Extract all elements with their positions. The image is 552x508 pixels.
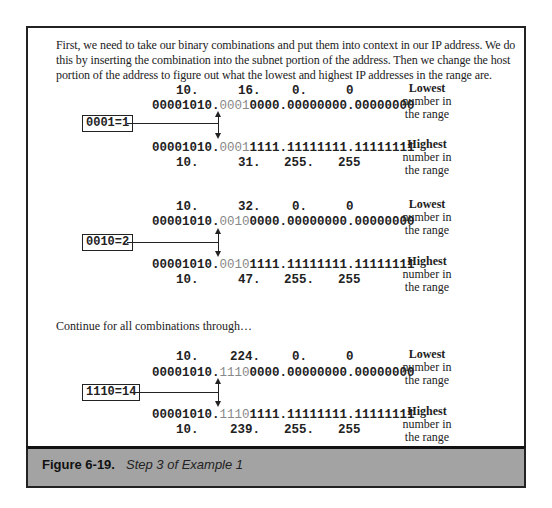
connector-vline — [218, 231, 219, 252]
low-octet-3: 0. — [292, 200, 307, 214]
arrow-up-icon — [215, 378, 221, 384]
high-octet-1: 10. — [176, 273, 199, 287]
low-octet-3: 0. — [292, 84, 307, 98]
high-octet-3: 255. — [284, 273, 314, 287]
low-binary: 00001010.00100000.00000000.00000000 — [152, 215, 415, 229]
low-octet-4: 0 — [346, 350, 354, 364]
low-octet-1: 10. — [176, 84, 199, 98]
high-octet-2: 239. — [230, 423, 260, 437]
low-binary: 00001010.11100000.00000000.00000000 — [152, 366, 415, 380]
lowest-label: Lowestnumber in the range — [394, 198, 460, 237]
lowest-label: Lowestnumber in the range — [394, 348, 460, 387]
highest-label: Highestnumber in the range — [394, 138, 460, 177]
low-octet-2: 16. — [238, 84, 261, 98]
continue-text: Continue for all combinations through… — [56, 319, 252, 334]
high-octet-2: 31. — [238, 156, 261, 170]
subnet-bits: 0001 — [220, 141, 250, 155]
high-octet-2: 47. — [238, 273, 261, 287]
low-octet-1: 10. — [176, 200, 199, 214]
high-binary: 00001010.00101111.11111111.11111111 — [152, 258, 415, 272]
arrow-down-icon — [215, 401, 221, 407]
subnet-bits: 1110 — [220, 408, 250, 422]
high-octet-4: 255 — [338, 156, 361, 170]
arrow-up-icon — [215, 228, 221, 234]
low-octet-4: 0 — [346, 200, 354, 214]
subnet-bits: 0010 — [220, 215, 250, 229]
low-octet-2: 32. — [238, 200, 261, 214]
high-octet-4: 255 — [338, 423, 361, 437]
intro-paragraph: First, we need to take our binary combin… — [56, 38, 516, 83]
connector-line — [127, 242, 218, 243]
high-octet-3: 255. — [284, 156, 314, 170]
connector-line — [127, 123, 218, 124]
low-binary: 00001010.00010000.00000000.00000000 — [152, 99, 415, 113]
caption-label: Figure 6-19. — [42, 457, 115, 472]
low-octet-1: 10. — [176, 350, 199, 364]
arrow-up-icon — [215, 111, 221, 117]
caption-text: Step 3 of Example 1 — [126, 457, 243, 472]
combination-tag: 0010=2 — [82, 234, 133, 251]
highest-label: Highestnumber in the range — [394, 255, 460, 294]
lowest-label: Lowestnumber in the range — [394, 82, 460, 121]
highest-label: Highestnumber in the range — [394, 405, 460, 444]
high-binary: 00001010.11101111.11111111.11111111 — [152, 408, 415, 422]
subnet-bits: 0001 — [220, 99, 250, 113]
high-octet-3: 255. — [284, 423, 314, 437]
high-octet-4: 255 — [338, 273, 361, 287]
combination-tag: 0001=1 — [82, 115, 133, 132]
low-octet-3: 0. — [292, 350, 307, 364]
high-octet-1: 10. — [176, 156, 199, 170]
low-octet-2: 224. — [230, 350, 260, 364]
combination-tag: 1110=14 — [82, 384, 140, 401]
connector-vline — [218, 381, 219, 402]
figure-caption: Figure 6-19. Step 3 of Example 1 — [26, 446, 526, 488]
high-octet-1: 10. — [176, 423, 199, 437]
arrow-down-icon — [215, 133, 221, 139]
connector-vline — [218, 114, 219, 134]
subnet-bits: 1110 — [220, 366, 250, 380]
subnet-bits: 0010 — [220, 258, 250, 272]
low-octet-4: 0 — [346, 84, 354, 98]
arrow-down-icon — [215, 251, 221, 257]
high-binary: 00001010.00011111.11111111.11111111 — [152, 141, 415, 155]
connector-line — [134, 392, 218, 393]
